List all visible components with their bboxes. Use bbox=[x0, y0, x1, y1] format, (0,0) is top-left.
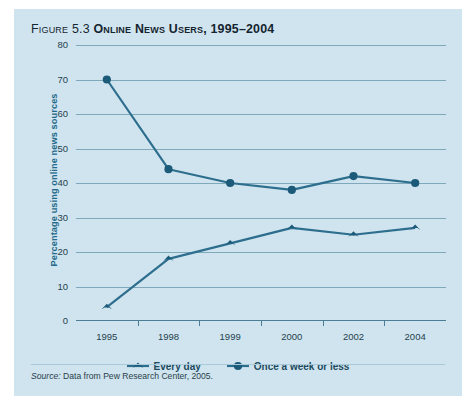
y-tick-label: 0 bbox=[38, 315, 68, 326]
y-tick-label: 50 bbox=[38, 143, 68, 154]
figure-title: Figure 5.3 Online News Users, 1995–2004 bbox=[31, 22, 274, 36]
x-tick-label: 2002 bbox=[324, 331, 384, 342]
grid-area bbox=[76, 45, 446, 321]
y-tick-label: 40 bbox=[38, 177, 68, 188]
x-tick-label: 1995 bbox=[77, 331, 137, 342]
x-tick-mark bbox=[323, 321, 324, 326]
plot-area: Percentage using online news sources 010… bbox=[14, 45, 462, 345]
data-point-marker bbox=[103, 75, 111, 83]
x-tick-mark bbox=[261, 321, 262, 326]
figure-number: Figure 5.3 bbox=[31, 22, 90, 36]
legend-label: Once a week or less bbox=[254, 361, 350, 372]
x-tick-label: 1999 bbox=[200, 331, 260, 342]
series-line bbox=[107, 228, 415, 307]
x-tick-label: 1998 bbox=[139, 331, 199, 342]
source-note: Source: Data from Pew Research Center, 2… bbox=[31, 371, 213, 381]
y-tick-label: 70 bbox=[38, 74, 68, 85]
y-tick-label: 20 bbox=[38, 246, 68, 257]
y-tick-label: 80 bbox=[38, 39, 68, 50]
source-text: Data from Pew Research Center, 2005. bbox=[61, 371, 213, 381]
x-tick-label: 2000 bbox=[262, 331, 322, 342]
y-tick-label: 60 bbox=[38, 108, 68, 119]
series-2 bbox=[103, 75, 420, 194]
data-point-marker bbox=[349, 172, 357, 180]
y-tick-label: 30 bbox=[38, 212, 68, 223]
x-tick-mark bbox=[384, 321, 385, 326]
data-point-marker bbox=[164, 165, 172, 173]
legend-item-2[interactable]: Once a week or less bbox=[227, 360, 350, 372]
chart-series-svg bbox=[76, 45, 446, 321]
series-1 bbox=[102, 224, 421, 309]
y-tick-label: 10 bbox=[38, 281, 68, 292]
data-point-marker bbox=[411, 179, 419, 187]
figure-name: Online News Users, 1995–2004 bbox=[93, 22, 274, 36]
source-label: Source: bbox=[31, 371, 61, 381]
x-tick-mark bbox=[199, 321, 200, 326]
x-tick-label: 2004 bbox=[385, 331, 445, 342]
legend-label: Every day bbox=[154, 361, 201, 372]
data-point-marker bbox=[226, 179, 234, 187]
x-tick-mark bbox=[138, 321, 139, 326]
figure-panel: Figure 5.3 Online News Users, 1995–2004 … bbox=[14, 9, 462, 396]
circle-marker-icon bbox=[227, 360, 249, 372]
source-divider bbox=[31, 364, 445, 365]
data-point-marker bbox=[288, 186, 296, 194]
series-line bbox=[107, 80, 415, 190]
